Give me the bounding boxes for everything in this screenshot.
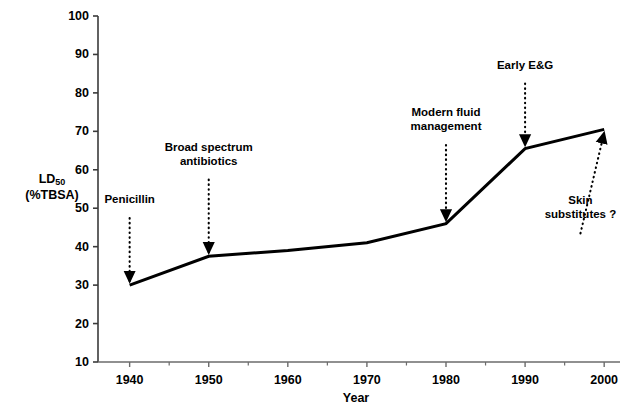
annotation-text-line: Broad spectrum <box>165 140 253 154</box>
annotation-text-line: Penicillin <box>104 192 155 206</box>
annotation-text-line: substitutes ? <box>545 207 617 221</box>
y-axis-title-line2: (%TBSA) <box>25 188 78 204</box>
annotation-label-early-eg: Early E&G <box>497 58 553 72</box>
x-tick-label: 1960 <box>274 374 302 387</box>
y-tick-label: 10 <box>75 356 89 369</box>
y-tick-label: 40 <box>75 240 89 253</box>
x-tick-label: 2000 <box>590 374 618 387</box>
x-tick-label: 1970 <box>353 374 381 387</box>
y-axis-title: LD50(%TBSA) <box>25 172 78 203</box>
y-tick-label: 80 <box>75 87 89 100</box>
x-axis-title: Year <box>343 391 369 407</box>
x-tick-label: 1950 <box>195 374 223 387</box>
annotation-arrows <box>130 84 605 283</box>
annotation-label-skin-substitutes: Skinsubstitutes ? <box>545 193 617 221</box>
y-axis-title-line1: LD50 <box>25 172 78 188</box>
annotation-text-line: antibiotics <box>165 154 253 168</box>
annotation-text-line: management <box>411 119 482 133</box>
y-tick-label: 20 <box>75 317 89 330</box>
x-tick-label: 1990 <box>511 374 539 387</box>
y-axis-title-subscript: 50 <box>55 177 65 187</box>
annotation-label-penicillin: Penicillin <box>104 192 155 206</box>
annotation-label-modern-fluid-management: Modern fluidmanagement <box>411 105 482 133</box>
x-tick-label: 1940 <box>116 374 144 387</box>
y-tick-label: 70 <box>75 125 89 138</box>
y-tick-label: 30 <box>75 279 89 292</box>
annotation-text-line: Modern fluid <box>411 105 482 119</box>
annotation-text-line: Skin <box>545 193 617 207</box>
y-axis-title-base: LD <box>39 172 56 186</box>
annotation-text-line: Early E&G <box>497 58 553 72</box>
y-tick-label: 100 <box>68 10 89 23</box>
annotation-label-broad-spectrum-antibiotics: Broad spectrumantibiotics <box>165 140 253 168</box>
y-tick-label: 50 <box>75 202 89 215</box>
chart-figure: 102030405060708090100 194019501960197019… <box>0 0 627 415</box>
x-tick-label: 1980 <box>432 374 460 387</box>
y-tick-label: 90 <box>75 48 89 61</box>
